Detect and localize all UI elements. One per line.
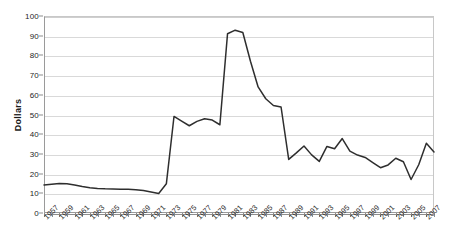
y-tick-label-30: 30: [30, 149, 39, 158]
y-tick-mark-60: [39, 94, 43, 95]
y-tick-mark-10: [39, 193, 43, 194]
y-tick-mark-90: [39, 35, 43, 36]
y-tick-label-40: 40: [30, 130, 39, 139]
y-tick-label-60: 60: [30, 90, 39, 99]
y-axis-tick-labels: 0102030405060708090100: [0, 16, 39, 213]
y-tick-mark-80: [39, 55, 43, 56]
y-tick-label-10: 10: [30, 189, 39, 198]
y-tick-label-20: 20: [30, 169, 39, 178]
y-tick-mark-70: [39, 75, 43, 76]
line-chart: Dollars 0102030405060708090100 195719591…: [0, 0, 450, 249]
y-tick-mark-20: [39, 173, 43, 174]
y-tick-mark-30: [39, 153, 43, 154]
y-tick-label-100: 100: [25, 12, 39, 21]
y-tick-mark-100: [39, 16, 43, 17]
series-layer: [44, 16, 434, 213]
y-tick-label-70: 70: [30, 71, 39, 80]
series-line-dollars: [44, 30, 434, 193]
y-tick-mark-50: [39, 114, 43, 115]
y-tick-label-90: 90: [30, 31, 39, 40]
y-tick-mark-40: [39, 134, 43, 135]
x-axis-tick-labels: 1957195919611963196519671969197119731975…: [0, 215, 450, 249]
y-tick-label-50: 50: [30, 110, 39, 119]
y-tick-label-80: 80: [30, 51, 39, 60]
